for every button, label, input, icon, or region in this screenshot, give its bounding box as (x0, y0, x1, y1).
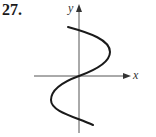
y-axis-arrow-icon (76, 4, 82, 12)
graph (0, 0, 156, 137)
x-axis-arrow-icon (123, 73, 131, 79)
y-axis (76, 4, 82, 133)
